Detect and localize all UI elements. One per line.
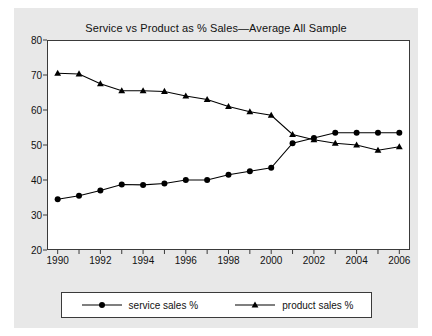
data-point-marker <box>161 181 167 187</box>
data-point-marker <box>226 172 232 178</box>
x-tick-label: 2002 <box>303 255 325 266</box>
x-tick-label: 1998 <box>217 255 239 266</box>
legend-entry-product: product sales % <box>233 299 353 311</box>
data-point-marker <box>290 140 296 146</box>
y-tick-label: 80 <box>20 35 42 46</box>
x-tick-label: 1994 <box>132 255 154 266</box>
y-tick-label: 70 <box>20 70 42 81</box>
legend-label-service: service sales % <box>129 300 198 311</box>
x-axis-tick-labels: 199019921994199619982000200220042006 <box>47 255 410 271</box>
data-point-marker <box>54 70 61 76</box>
chart-figure: Service vs Product as % Sales—Average Al… <box>0 0 432 336</box>
y-tick-label: 40 <box>20 175 42 186</box>
data-point-marker <box>97 188 103 194</box>
data-point-marker <box>76 193 82 199</box>
y-tick-label: 50 <box>20 140 42 151</box>
legend-marker-triangle-icon <box>233 299 277 311</box>
legend-entry-service: service sales % <box>80 299 198 311</box>
x-tick-label: 1990 <box>47 255 69 266</box>
data-point-marker <box>247 168 253 174</box>
plot-svg <box>47 40 410 250</box>
data-point-marker <box>396 143 403 149</box>
series-circle <box>55 130 403 203</box>
legend-label-product: product sales % <box>282 300 353 311</box>
data-point-marker <box>332 130 338 136</box>
y-tick-label: 30 <box>20 210 42 221</box>
chart-legend: service sales % product sales % <box>61 292 372 318</box>
x-tick-label: 2004 <box>345 255 367 266</box>
series-triangle <box>54 70 402 153</box>
y-tick-label: 60 <box>20 105 42 116</box>
data-point-marker <box>375 130 381 136</box>
y-axis-tick-labels: 20304050607080 <box>16 40 42 250</box>
data-point-marker <box>183 177 189 183</box>
chart-title: Service vs Product as % Sales—Average Al… <box>14 22 418 34</box>
axis-ticks <box>43 40 399 254</box>
data-point-marker <box>119 182 125 188</box>
data-point-marker <box>140 182 146 188</box>
x-tick-label: 2000 <box>260 255 282 266</box>
data-point-marker <box>204 177 210 183</box>
data-point-marker <box>55 196 61 202</box>
data-point-marker <box>396 130 402 136</box>
x-tick-label: 1996 <box>175 255 197 266</box>
y-tick-label: 20 <box>20 245 42 256</box>
data-point-marker <box>268 165 274 171</box>
x-tick-label: 1992 <box>89 255 111 266</box>
data-point-marker <box>354 130 360 136</box>
legend-marker-circle-icon <box>80 299 124 311</box>
data-series-group <box>54 70 402 203</box>
x-tick-label: 2006 <box>388 255 410 266</box>
